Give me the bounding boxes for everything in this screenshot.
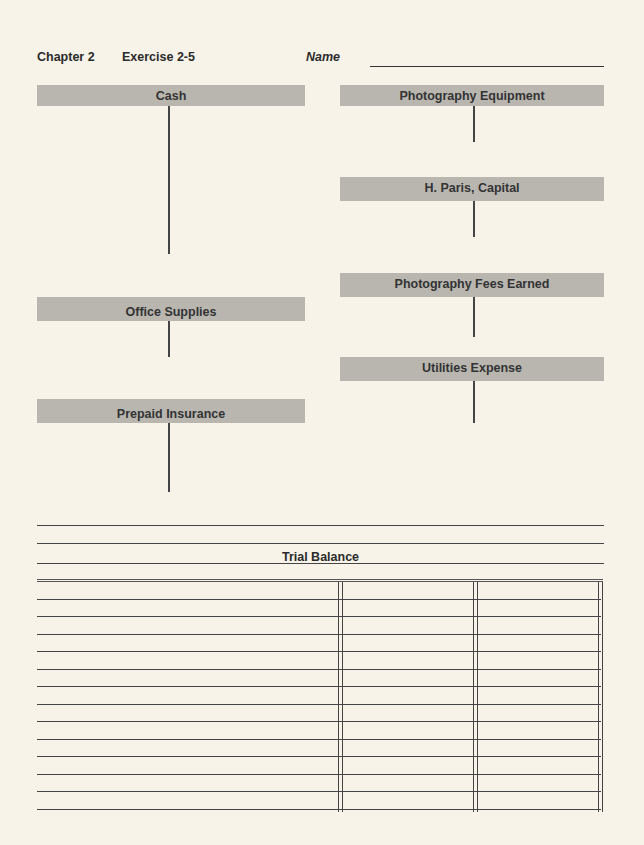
t-account-prepaid-insurance-divider <box>168 423 170 492</box>
trial-balance-table <box>37 579 603 812</box>
table-row[interactable] <box>37 634 601 635</box>
table-row[interactable] <box>37 599 601 600</box>
t-account-fees-earned-title: Photography Fees Earned <box>340 273 604 297</box>
t-account-photography-equipment-divider <box>473 106 475 142</box>
table-row[interactable] <box>37 809 601 810</box>
table-row[interactable] <box>37 739 601 740</box>
table-row[interactable] <box>37 686 601 687</box>
table-row[interactable] <box>37 756 601 757</box>
trial-balance-heading-line-3 <box>37 563 604 564</box>
table-row[interactable] <box>37 774 601 775</box>
chapter-label: Chapter 2 <box>37 50 95 64</box>
t-account-fees-earned-divider <box>473 297 475 337</box>
table-row[interactable] <box>37 791 601 792</box>
t-account-photography-equipment-title: Photography Equipment <box>340 85 604 106</box>
exercise-label: Exercise 2-5 <box>122 50 195 64</box>
name-field[interactable] <box>370 66 604 67</box>
table-row[interactable] <box>37 651 601 652</box>
table-row[interactable] <box>37 616 601 617</box>
trial-balance-title: Trial Balance <box>37 550 604 564</box>
trial-balance-heading-line-1[interactable] <box>37 525 604 526</box>
t-account-cash-divider <box>168 106 170 254</box>
t-account-cash-title: Cash <box>37 85 305 106</box>
t-account-utilities-expense-divider <box>473 381 475 423</box>
t-account-office-supplies-divider <box>168 321 170 357</box>
trial-balance-heading-line-2[interactable] <box>37 543 604 544</box>
table-row[interactable] <box>37 669 601 670</box>
t-account-office-supplies-title: Office Supplies <box>37 297 305 321</box>
t-account-capital-divider <box>473 201 475 237</box>
table-row[interactable] <box>37 704 601 705</box>
t-account-capital-title: H. Paris, Capital <box>340 177 604 201</box>
t-account-prepaid-insurance-title: Prepaid Insurance <box>37 399 305 423</box>
table-row[interactable] <box>37 721 601 722</box>
name-label: Name <box>306 50 340 64</box>
t-account-utilities-expense-title: Utilities Expense <box>340 357 604 381</box>
